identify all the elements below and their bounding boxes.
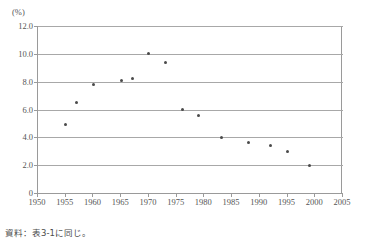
gridline-y xyxy=(38,165,343,166)
data-point xyxy=(247,141,250,144)
data-point xyxy=(131,77,134,80)
source-footnote: 資料：表3-1に同じ。 xyxy=(5,226,91,238)
data-point xyxy=(120,79,123,82)
data-point xyxy=(92,83,95,86)
x-axis: 1950195519601965197019751980198519901995… xyxy=(37,193,342,215)
plot-area xyxy=(37,26,342,193)
chart-figure: (%) 02.04.06.08.010.012.0 19501955196019… xyxy=(0,0,365,245)
y-axis-tick-label: 12.0 xyxy=(7,22,33,31)
y-axis-tick-label: 2.0 xyxy=(7,161,33,170)
y-axis-tick xyxy=(34,82,38,83)
y-axis-unit-label: (%) xyxy=(12,7,25,17)
data-point xyxy=(75,101,78,104)
x-axis-tick-label: 2005 xyxy=(325,198,359,207)
y-axis-tick-label: 10.0 xyxy=(7,50,33,59)
gridline-y xyxy=(38,137,343,138)
data-point xyxy=(164,61,167,64)
gridline-y xyxy=(38,82,343,83)
data-point xyxy=(147,52,150,55)
gridline-y xyxy=(38,110,343,111)
y-axis-tick-label: 6.0 xyxy=(7,106,33,115)
y-axis-tick-label: 4.0 xyxy=(7,133,33,142)
gridline-y xyxy=(38,26,343,27)
gridline-y xyxy=(38,54,343,55)
y-axis-tick xyxy=(34,54,38,55)
data-point xyxy=(286,150,289,153)
data-point xyxy=(197,114,200,117)
y-axis-tick xyxy=(34,26,38,27)
y-axis: 02.04.06.08.010.012.0 xyxy=(0,26,33,198)
data-point xyxy=(64,123,67,126)
y-axis-tick xyxy=(34,165,38,166)
y-axis-tick-label: 8.0 xyxy=(7,78,33,87)
data-point xyxy=(269,144,272,147)
data-point xyxy=(308,164,311,167)
data-point xyxy=(220,136,223,139)
y-axis-tick xyxy=(34,110,38,111)
y-axis-tick xyxy=(34,137,38,138)
data-point xyxy=(181,108,184,111)
